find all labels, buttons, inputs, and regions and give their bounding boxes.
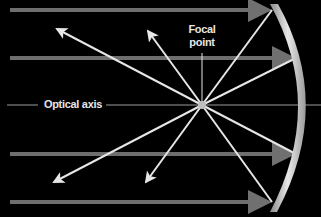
focal-point-marker — [198, 101, 206, 109]
concave-mirror — [270, 4, 306, 212]
reflected-ray-4 — [146, 105, 202, 182]
optical-axis-label: Optical axis — [42, 98, 104, 111]
focal-point-label-line2: point — [180, 36, 224, 49]
focal-point-label-line1: Focal — [180, 23, 224, 36]
reflected-ray-3 — [54, 105, 202, 182]
focal-point-label: Focal point — [180, 23, 224, 49]
